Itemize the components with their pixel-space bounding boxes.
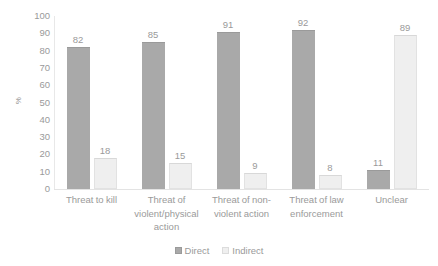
y-axis-tick-90: 90: [20, 28, 50, 38]
bar-indirect-0[interactable]: [94, 158, 117, 189]
bar-value-label: 11: [373, 157, 383, 168]
bar-indirect-4[interactable]: [394, 35, 417, 189]
plot-area: 821885159199281189: [54, 16, 429, 189]
x-axis-label-3: Threat of law enforcement: [279, 193, 354, 220]
bar-value-label: 82: [73, 34, 84, 45]
legend-swatch-direct-icon: [175, 247, 182, 254]
bar-indirect-3[interactable]: [319, 175, 342, 189]
bar-slot: 89: [394, 16, 417, 189]
bar-value-label: 9: [252, 160, 257, 171]
chart-legend: DirectIndirect: [0, 245, 438, 256]
bar-value-label: 18: [100, 145, 111, 156]
legend-swatch-indirect-icon: [222, 247, 229, 254]
legend-item-direct[interactable]: Direct: [175, 245, 210, 256]
bar-direct-1[interactable]: [142, 42, 165, 189]
legend-item-indirect[interactable]: Indirect: [222, 245, 263, 256]
bar-value-label: 92: [298, 17, 309, 28]
bar-indirect-2[interactable]: [244, 173, 267, 189]
y-axis-tick-60: 60: [20, 80, 50, 90]
y-axis-tick-40: 40: [20, 115, 50, 125]
bar-value-label: 89: [400, 22, 411, 33]
bar-chart: % 1009080706050403020100 821885159199281…: [0, 0, 438, 266]
y-axis-tick-80: 80: [20, 46, 50, 56]
bar-slot: 11: [367, 16, 390, 189]
legend-label: Indirect: [232, 245, 263, 256]
bar-slot: 85: [142, 16, 165, 189]
bar-slot: 92: [292, 16, 315, 189]
bar-value-label: 15: [175, 150, 186, 161]
y-axis-tick-100: 100: [20, 11, 50, 21]
bar-slot: 15: [169, 16, 192, 189]
x-axis-label-4: Unclear: [354, 193, 429, 207]
bar-slot: 9: [244, 16, 267, 189]
bar-value-label: 8: [327, 162, 332, 173]
y-axis-tick-50: 50: [20, 98, 50, 108]
bar-direct-2[interactable]: [217, 32, 240, 189]
y-axis-tick-10: 10: [20, 167, 50, 177]
bar-direct-0[interactable]: [67, 47, 90, 189]
legend-label: Direct: [185, 245, 210, 256]
bar-value-label: 85: [148, 29, 159, 40]
bar-group: 919: [204, 16, 279, 189]
bar-indirect-1[interactable]: [169, 163, 192, 189]
x-axis-category-labels: Threat to killThreat of violent/physical…: [54, 193, 429, 239]
bar-group: 8515: [129, 16, 204, 189]
bar-slot: 82: [67, 16, 90, 189]
bar-group: 8218: [54, 16, 129, 189]
bar-slot: 18: [94, 16, 117, 189]
bar-group: 928: [279, 16, 354, 189]
y-axis-tick-20: 20: [20, 149, 50, 159]
bar-slot: 8: [319, 16, 342, 189]
bar-group: 1189: [354, 16, 429, 189]
y-axis-tick-30: 30: [20, 132, 50, 142]
y-axis-tick-0: 0: [20, 184, 50, 194]
bar-slot: 91: [217, 16, 240, 189]
bar-direct-3[interactable]: [292, 30, 315, 189]
x-axis-label-2: Threat of non-violent action: [204, 193, 279, 220]
y-axis-tick-labels: 1009080706050403020100: [20, 10, 50, 195]
x-axis-label-0: Threat to kill: [54, 193, 129, 207]
y-axis-tick-70: 70: [20, 63, 50, 73]
bar-value-label: 91: [223, 19, 234, 30]
x-axis-label-1: Threat of violent/physical action: [129, 193, 204, 234]
bar-direct-4[interactable]: [367, 170, 390, 189]
